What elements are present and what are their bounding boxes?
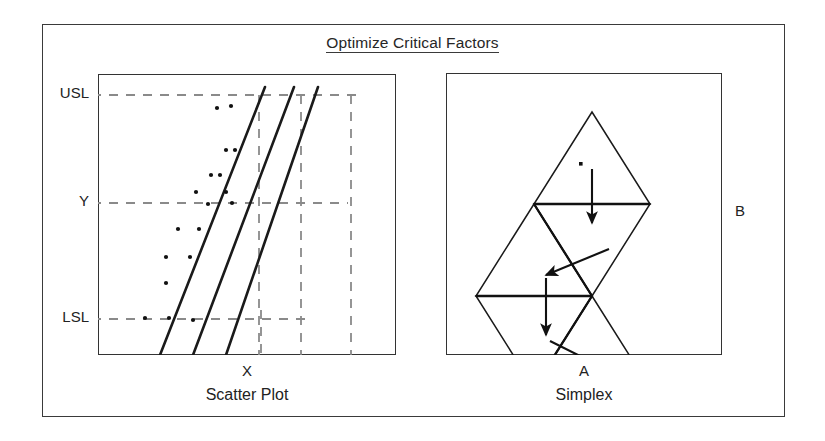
scatter-point [230,201,234,205]
scatter-lsl-label: LSL [62,309,89,324]
simplex-y-axis-label: B [735,203,745,218]
scatter-plot-canvas [98,74,396,355]
simplex-x-axis-label: A [446,362,722,379]
scatter-point [215,106,219,110]
simplex-move-arrows [546,169,610,355]
scatter-point [209,173,213,177]
upper-confidence-line [160,87,265,355]
scatter-x-axis-label: X [98,362,396,379]
scatter-point [233,148,237,152]
scatter-point [197,227,201,231]
scatter-target-label: Y [79,193,89,208]
simplex-edge-diagonal-1 [534,204,592,296]
scatter-point [164,281,168,285]
simplex-interior-edges [476,204,650,355]
simplex-triangles [476,112,650,355]
vertical-reference-lines [259,95,351,355]
scatter-point [143,316,147,320]
scatter-point [176,227,180,231]
figure-title-text: Optimize Critical Factors [326,34,499,53]
horizontal-reference-lines [98,95,358,319]
scatter-points [143,104,237,322]
scatter-point [194,190,198,194]
scatter-point [224,148,228,152]
scatter-panel-caption: Scatter Plot [70,386,424,404]
simplex-canvas [446,73,722,355]
scatter-point [164,255,168,259]
scatter-plot-panel: USL Y LSL [98,74,396,355]
simplex-start-marker [579,162,583,166]
regression-line [193,87,294,355]
scatter-point [188,255,192,259]
scatter-point [224,190,228,194]
scatter-point [206,202,210,206]
scatter-point [191,318,195,322]
scatter-point [229,104,233,108]
figure-title: Optimize Critical Factors [0,34,825,52]
scatter-point [167,316,171,320]
regression-lines [160,87,318,355]
scatter-point [218,173,222,177]
simplex-triangle-5 [534,296,650,355]
simplex-edge-diagonal-2 [534,296,592,355]
simplex-panel: B [446,73,722,355]
scatter-usl-label: USL [60,85,89,100]
simplex-panel-caption: Simplex [446,386,722,404]
simplex-triangle-3 [476,204,592,296]
lower-confidence-line [226,87,318,355]
figure-root: Optimize Critical Factors [0,0,825,441]
